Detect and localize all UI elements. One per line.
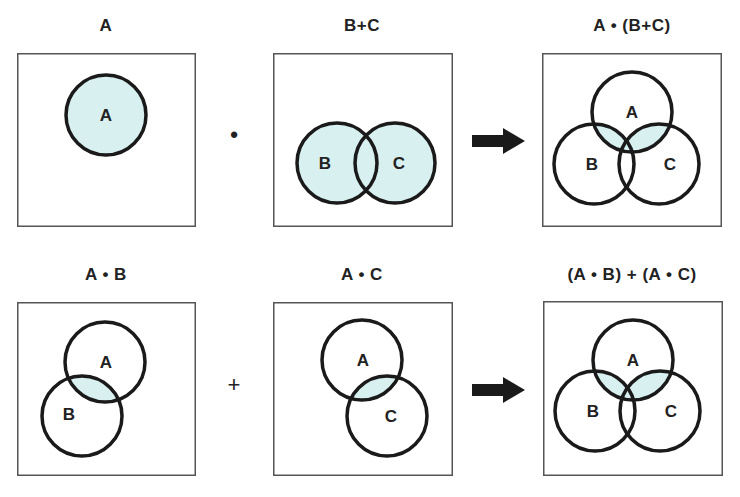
title-a-and-b: A • B bbox=[6, 265, 206, 285]
right-arrow-icon bbox=[472, 376, 526, 404]
title-b-or-c: B+C bbox=[262, 16, 462, 36]
right-arrow-icon bbox=[472, 127, 526, 155]
label-b: B bbox=[319, 154, 331, 173]
title-ab-or-ac: (A • B) + (A • C) bbox=[532, 265, 732, 285]
venn-panel-a: A bbox=[17, 53, 196, 227]
label-c: C bbox=[665, 402, 677, 421]
title-a-and-b-or-c: A • (B+C) bbox=[532, 16, 732, 36]
label-a: A bbox=[627, 351, 639, 370]
label-b: B bbox=[587, 402, 599, 421]
title-a-and-c: A • C bbox=[262, 265, 462, 285]
label-c: C bbox=[385, 407, 397, 426]
label-a: A bbox=[357, 351, 369, 370]
venn-panel-a-and-c: A C bbox=[273, 302, 452, 476]
title-a: A bbox=[6, 16, 206, 36]
venn-panel-ab-or-ac: A B C bbox=[543, 301, 722, 475]
label-b: B bbox=[63, 405, 75, 424]
and-operator: • bbox=[219, 122, 249, 148]
venn-panel-a-and-b: A B bbox=[17, 302, 196, 476]
venn-panel-a-and-b-or-c: A B C bbox=[542, 53, 721, 227]
label-c: C bbox=[664, 155, 676, 174]
label-a: A bbox=[100, 106, 112, 125]
label-a: A bbox=[626, 103, 638, 122]
label-c: C bbox=[393, 154, 405, 173]
label-a: A bbox=[100, 353, 112, 372]
plus-operator: + bbox=[219, 372, 249, 398]
venn-panel-b-or-c: B C bbox=[273, 53, 452, 227]
label-b: B bbox=[586, 155, 598, 174]
